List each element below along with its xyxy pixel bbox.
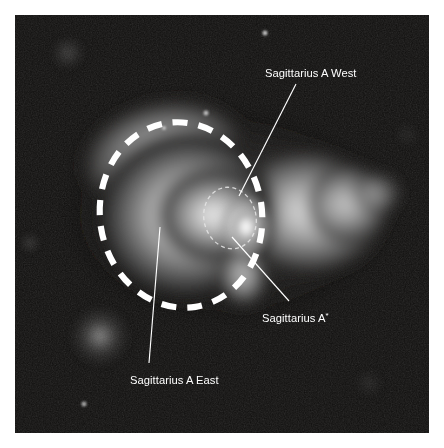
label-sgr-a-star: Sagittarius A* [262, 311, 329, 325]
point-source-upper [261, 29, 268, 36]
point-source-lower [80, 400, 87, 407]
radio-image-canvas: Sagittarius A West Sagittarius A* Sagitt… [15, 15, 429, 433]
diffuse-blob-left-edge [19, 232, 41, 254]
label-sgr-a-star-superscript: * [325, 311, 328, 320]
western-tail [351, 171, 403, 215]
sgr-a-star-core-group [218, 193, 274, 261]
label-sgr-a-east: Sagittarius A East [130, 374, 219, 386]
label-sgr-a-star-text: Sagittarius A [262, 312, 326, 324]
diffuse-blob-lower-left-core [82, 318, 118, 354]
diffuse-blob-upper-left [49, 34, 87, 72]
figure-root: Sagittarius A West Sagittarius A* Sagitt… [0, 0, 444, 448]
diffuse-blob-bottom-right [353, 367, 385, 399]
diffuse-blob-right-edge [393, 121, 421, 149]
point-source-mid-left [202, 109, 209, 116]
label-sgr-a-west: Sagittarius A West [265, 67, 357, 79]
